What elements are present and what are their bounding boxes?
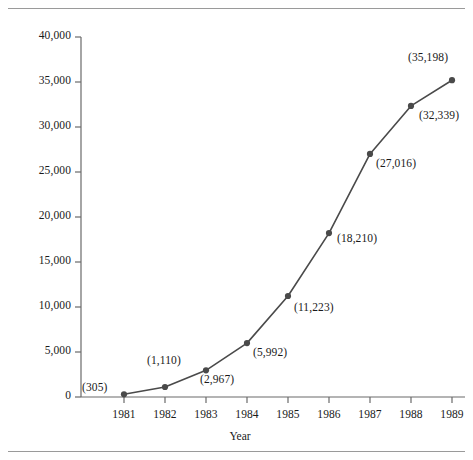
- data-point-label: (18,210): [337, 232, 377, 244]
- data-point-label: (2,967): [200, 373, 234, 385]
- y-axis-tick-marks: [75, 37, 81, 397]
- data-point-marker: [326, 230, 332, 236]
- chart-axes: [81, 37, 465, 397]
- data-series-markers: [121, 77, 455, 397]
- data-point-label: (11,223): [294, 301, 334, 313]
- data-point-label: (305): [82, 381, 107, 393]
- x-axis-tick-label: 1983: [185, 408, 227, 420]
- data-point-marker: [285, 293, 291, 299]
- y-axis-tick-label: 10,000: [6, 299, 71, 311]
- data-point-label: (35,198): [408, 51, 448, 63]
- data-point-label: (32,339): [419, 109, 459, 121]
- x-axis-tick-label: 1987: [349, 408, 391, 420]
- y-axis-tick-label: 5,000: [6, 344, 71, 356]
- data-point-marker: [408, 103, 414, 109]
- data-series-line: [124, 80, 452, 394]
- y-axis-tick-label: 0: [6, 389, 71, 401]
- y-axis-tick-label: 30,000: [6, 119, 71, 131]
- y-axis-tick-label: 40,000: [6, 29, 71, 41]
- y-axis-tick-label: 20,000: [6, 209, 71, 221]
- data-point-label: (5,992): [253, 346, 287, 358]
- y-axis-tick-label: 35,000: [6, 74, 71, 86]
- x-axis-tick-label: 1989: [431, 408, 473, 420]
- data-point-marker: [162, 384, 168, 390]
- data-point-marker: [121, 391, 127, 397]
- x-axis-tick-label: 1981: [103, 408, 145, 420]
- x-axis-tick-label: 1985: [267, 408, 309, 420]
- x-axis-tick-label: 1984: [226, 408, 268, 420]
- x-axis-tick-label: 1986: [308, 408, 350, 420]
- x-axis-title: Year: [160, 430, 320, 442]
- x-axis-tick-label: 1982: [144, 408, 186, 420]
- y-axis-tick-label: 15,000: [6, 254, 71, 266]
- data-point-marker: [244, 340, 250, 346]
- x-axis-tick-label: 1988: [390, 408, 432, 420]
- chart-figure: 05,00010,00015,00020,00025,00030,00035,0…: [0, 0, 473, 460]
- x-axis-tick-marks: [124, 397, 452, 403]
- data-point-marker: [449, 77, 455, 83]
- y-axis-tick-label: 25,000: [6, 164, 71, 176]
- data-point-marker: [367, 151, 373, 157]
- data-point-label: (1,110): [147, 354, 181, 366]
- data-point-label: (27,016): [376, 157, 416, 169]
